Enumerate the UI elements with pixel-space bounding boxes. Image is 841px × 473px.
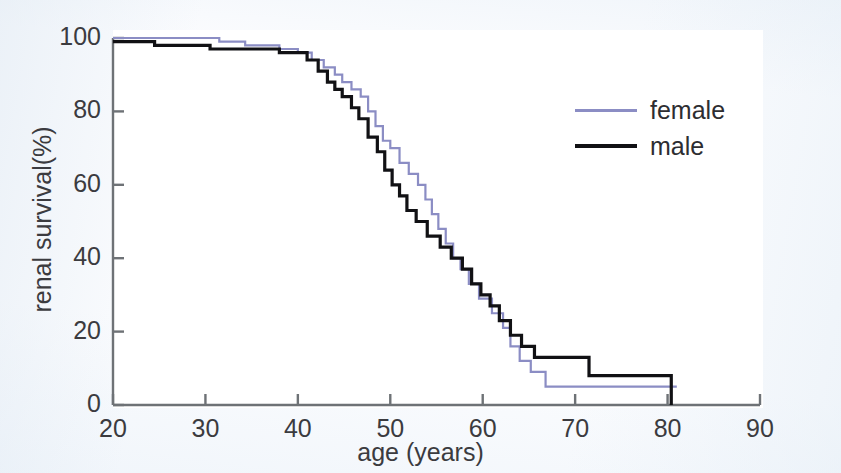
legend-line-male-icon — [575, 144, 637, 148]
kaplan-meier-chart — [0, 0, 841, 473]
figure-container: 020406080100 2030405060708090 age (years… — [0, 0, 841, 473]
y-axis-ticks — [113, 38, 124, 405]
y-tick-label: 100 — [9, 22, 101, 51]
x-axis-ticks — [113, 394, 760, 405]
legend-item-male: male — [575, 128, 725, 164]
chart-legend: female male — [575, 92, 725, 164]
x-axis-title: age (years) — [0, 438, 841, 467]
y-axis-title: renal survival(%) — [28, 50, 57, 390]
legend-item-female: female — [575, 92, 725, 128]
series-line-female — [113, 38, 677, 387]
legend-label-male: male — [650, 132, 704, 161]
legend-line-female-icon — [575, 109, 637, 112]
legend-label-female: female — [650, 96, 725, 125]
